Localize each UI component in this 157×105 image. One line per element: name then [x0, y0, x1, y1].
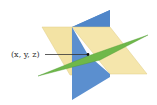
intersection-point	[87, 53, 90, 56]
blue-plane-upper	[72, 10, 110, 27]
point-label: (x, y, z)	[11, 50, 40, 59]
three-planes-diagram: (x, y, z)	[0, 0, 157, 105]
